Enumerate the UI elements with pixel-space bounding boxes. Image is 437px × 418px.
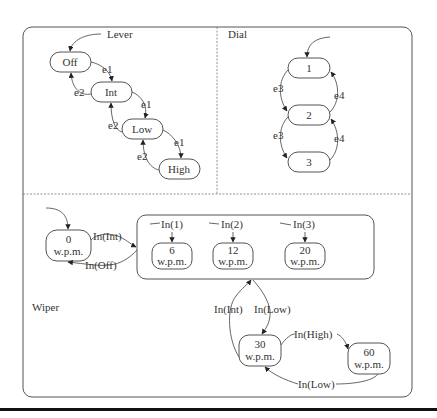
edge-label-e2: e2	[108, 119, 118, 131]
edge-label-e3: e3	[273, 82, 284, 94]
state-0-wpm: 0 w.p.m.	[46, 230, 91, 261]
wiper-region-title: Wiper	[32, 301, 59, 313]
state-int: Int	[91, 82, 132, 102]
svg-text:3: 3	[306, 156, 312, 168]
edge-label-e2: e2	[137, 150, 147, 162]
edge-label-e2: e2	[74, 86, 84, 98]
edge-label-in-int: In(Int)	[214, 303, 243, 316]
edge-label-in-low: In(Low)	[298, 378, 335, 391]
edge-label-in-high: In(High)	[294, 328, 333, 341]
edge-label-e1: e1	[102, 63, 112, 75]
svg-text:Off: Off	[62, 56, 77, 68]
svg-text:w.p.m.: w.p.m.	[290, 255, 320, 267]
svg-text:Int: Int	[105, 86, 117, 98]
svg-text:High: High	[168, 163, 191, 175]
edge-label-e1: e1	[174, 136, 184, 148]
state-1: 1	[288, 58, 330, 78]
state-2: 2	[288, 105, 330, 125]
state-6-wpm: 6 w.p.m.	[152, 243, 192, 269]
edge-label-e3: e3	[273, 129, 284, 141]
svg-text:w.p.m.: w.p.m.	[54, 245, 84, 257]
state-12-wpm: 12 w.p.m.	[213, 243, 253, 269]
svg-text:Low: Low	[132, 123, 152, 135]
svg-text:1: 1	[306, 62, 312, 74]
edge-label-in-off: In(Off)	[85, 259, 117, 272]
state-30-wpm: 30 w.p.m.	[239, 335, 281, 366]
edge-label-in-low: In(Low)	[254, 303, 291, 316]
state-20-wpm: 20 w.p.m.	[285, 243, 325, 269]
edge-label-e4: e4	[334, 89, 345, 101]
svg-text:w.p.m.: w.p.m.	[157, 255, 187, 267]
lever-region-title: Lever	[107, 28, 133, 40]
state-low: Low	[122, 119, 163, 139]
entry-label-in-1: In(1)	[161, 218, 183, 231]
edge-label-in-int: In(Int)	[93, 230, 122, 243]
state-3: 3	[288, 152, 330, 172]
dial-region-title: Dial	[228, 28, 247, 40]
svg-text:30: 30	[255, 338, 267, 350]
entry-label-in-2: In(2)	[221, 218, 243, 231]
entry-label-in-3: In(3)	[293, 218, 315, 231]
svg-text:2: 2	[306, 109, 312, 121]
edge-label-e1: e1	[141, 98, 151, 110]
outer-container	[23, 27, 412, 397]
statechart-diagram: Lever Off Int Low High e1 e1 e1 e2 e2 e2…	[0, 0, 437, 418]
state-high: High	[159, 159, 200, 179]
state-60-wpm: 60 w.p.m.	[348, 343, 390, 374]
svg-text:0: 0	[66, 233, 72, 245]
bottom-rule	[0, 408, 437, 411]
svg-text:60: 60	[364, 346, 376, 358]
svg-text:w.p.m.: w.p.m.	[354, 358, 384, 370]
edge-label-e4: e4	[334, 132, 345, 144]
svg-text:w.p.m.: w.p.m.	[218, 255, 248, 267]
svg-text:w.p.m.: w.p.m.	[245, 350, 275, 362]
state-off: Off	[50, 52, 91, 72]
